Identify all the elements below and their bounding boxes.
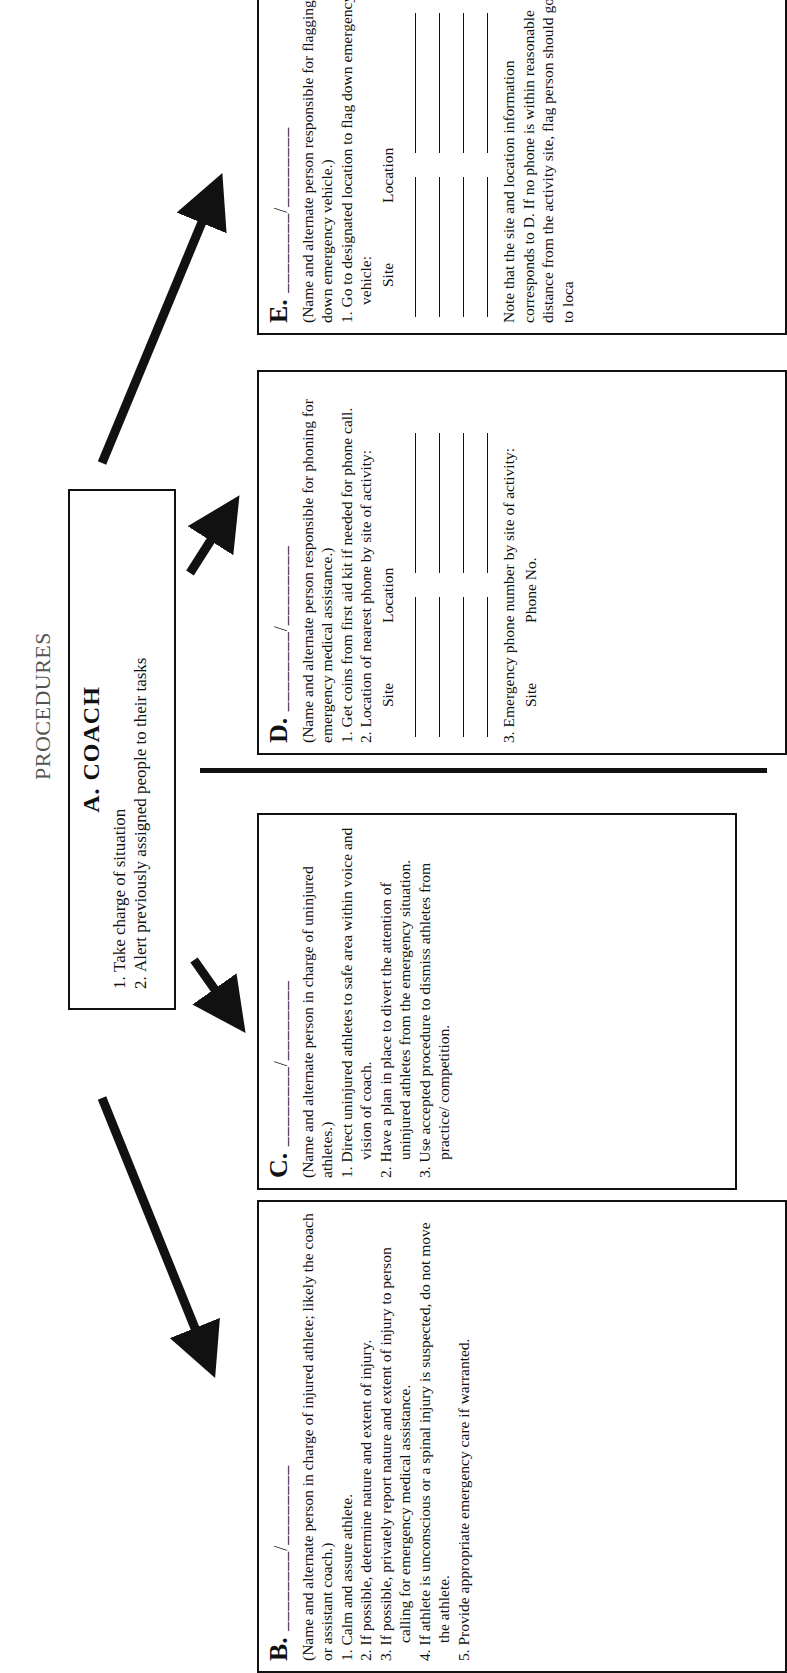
location-line[interactable] — [427, 433, 440, 573]
site-line[interactable] — [427, 177, 440, 317]
coach-heading: A. COACH — [78, 505, 105, 994]
box-c-step: 1. Direct uninjured athletes to safe are… — [337, 825, 376, 1178]
entry-row — [427, 382, 440, 737]
coach-task: Alert previously assigned people to thei… — [130, 505, 151, 972]
box-d-phone-location-headers: Site Location — [378, 382, 398, 743]
site-line[interactable] — [475, 597, 488, 737]
box-e-intro: (Name and alternate person responsible f… — [298, 0, 337, 323]
box-c-uninjured-athletes: C. ________/________ (Name and alternate… — [257, 813, 737, 1190]
box-d-emergency-call: D. ________/________ (Name and alternate… — [257, 370, 787, 755]
column-header-location: Location — [378, 148, 398, 203]
site-line[interactable] — [403, 177, 416, 317]
box-b-step: 4. If athlete is unconscious or a spinal… — [415, 1212, 454, 1661]
box-b-step: 3. If possible, privately report nature … — [376, 1212, 415, 1661]
box-d-letter: D. — [264, 718, 293, 743]
box-d-step: 3. Emergency phone number by site of act… — [499, 382, 519, 743]
box-b-step: 5. Provide appropriate emergency care if… — [454, 1212, 474, 1661]
box-e-name-blank[interactable]: ________/________ — [271, 127, 291, 293]
column-header-site: Site — [378, 683, 398, 707]
coach-task-list: Take charge of situation Alert previousl… — [109, 505, 151, 994]
entry-row — [403, 0, 416, 317]
entry-row — [403, 382, 416, 737]
location-line[interactable] — [403, 433, 416, 573]
site-line[interactable] — [451, 597, 464, 737]
box-d-phone-number-headers: Site Phone No. — [521, 382, 541, 743]
box-d-intro: (Name and alternate person responsible f… — [298, 382, 337, 743]
site-line[interactable] — [403, 597, 416, 737]
box-d-header: D. ________/________ — [269, 382, 292, 743]
box-b-name-blank[interactable]: ________/________ — [271, 1465, 291, 1631]
box-b-header: B. ________/________ — [269, 1212, 292, 1661]
column-header-location: Location — [378, 568, 398, 623]
box-e-header: E. ________/________ — [269, 0, 292, 323]
box-e-flag-vehicle: E. ________/________ (Name and alternate… — [257, 0, 787, 335]
box-d-step: 2. Location of nearest phone by site of … — [356, 382, 376, 743]
entry-row — [451, 382, 464, 737]
entry-row — [427, 0, 440, 317]
box-c-step: 3. Use accepted procedure to dismiss ath… — [415, 825, 454, 1178]
box-b-letter: B. — [264, 1637, 293, 1661]
box-c-name-blank[interactable]: ________/________ — [271, 980, 291, 1146]
box-e-location-entries — [403, 0, 488, 323]
box-e-letter: E. — [264, 299, 293, 323]
location-line[interactable] — [403, 13, 416, 153]
box-d-step: 1. Get coins from first aid kit if neede… — [337, 382, 357, 743]
coach-box: A. COACH Take charge of situation Alert … — [68, 489, 176, 1010]
box-b-injured-athlete: B. ________/________ (Name and alternate… — [257, 1200, 787, 1673]
section-divider — [200, 768, 767, 773]
entry-row — [451, 0, 464, 317]
column-header-phone: Phone No. — [521, 557, 541, 622]
site-line[interactable] — [427, 597, 440, 737]
location-line[interactable] — [427, 13, 440, 153]
location-line[interactable] — [475, 13, 488, 153]
page-title: PROCEDURES — [30, 640, 56, 780]
box-e-location-headers: Site Location — [378, 0, 398, 323]
box-c-letter: C. — [264, 1153, 293, 1178]
box-b-step: 2. If possible, determine nature and ext… — [356, 1212, 376, 1661]
column-header-site: Site — [521, 683, 541, 707]
box-b-step: 1. Calm and assure athlete. — [337, 1212, 357, 1661]
location-line[interactable] — [475, 433, 488, 573]
box-c-intro: (Name and alternate person in charge of … — [298, 825, 337, 1178]
box-e-step: 1. Go to designated location to flag dow… — [337, 0, 376, 323]
column-header-site: Site — [378, 263, 398, 287]
entry-row — [475, 0, 488, 317]
site-line[interactable] — [475, 177, 488, 317]
box-e-note: Note that the site and location informat… — [499, 0, 577, 323]
box-c-header: C. ________/________ — [269, 825, 292, 1178]
entry-row — [475, 382, 488, 737]
box-d-name-blank[interactable]: ________/________ — [271, 545, 291, 711]
coach-task: Take charge of situation — [109, 505, 130, 972]
box-b-intro: (Name and alternate person in charge of … — [298, 1212, 337, 1661]
site-line[interactable] — [451, 177, 464, 317]
location-line[interactable] — [451, 433, 464, 573]
location-line[interactable] — [451, 13, 464, 153]
box-d-phone-location-entries — [403, 382, 488, 743]
box-c-step: 2. Have a plan in place to divert the at… — [376, 825, 415, 1178]
